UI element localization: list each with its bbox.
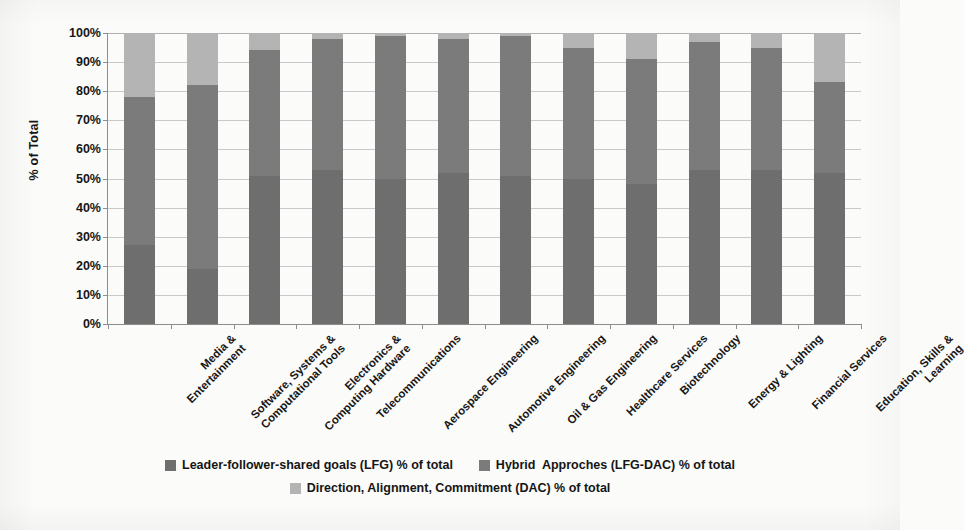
x-axis-category-labels: Media &EntertainmentSoftware, Systems &C… [0,330,900,450]
bar-7 [500,33,531,324]
y-tick-mark-80 [103,91,108,92]
bar-segment-lfg [375,179,406,325]
y-tick-mark-30 [103,237,108,238]
y-tick-label-0: 0% [55,317,101,331]
legend-swatch-icon [479,460,490,471]
x-tick-mark-0 [108,324,109,329]
bar-segment-hybrid [563,48,594,179]
x-axis-label-9: Biotechnology [678,332,744,398]
y-tick-mark-70 [103,120,108,121]
legend-item-3[interactable]: Direction, Alignment, Commitment (DAC) %… [290,481,611,495]
bar-segment-lfg [814,173,845,324]
chart-legend: Leader-follower-shared goals (LFG) % of … [0,458,900,495]
legend-label: Hybrid Approches (LFG-DAC) % of total [496,458,735,472]
y-tick-label-70: 70% [55,113,101,127]
x-tick-mark-11 [798,324,799,329]
x-tick-mark-10 [736,324,737,329]
bar-segment-dac [500,33,531,36]
bar-segment-hybrid [814,82,845,172]
x-label-line: Biotechnology [678,332,744,398]
bar-segment-dac [375,33,406,36]
legend-row-secondary: Direction, Alignment, Commitment (DAC) %… [0,481,900,495]
x-axis-label-7: Oil & Gas Engineering [564,332,659,427]
bar-segment-dac [689,33,720,42]
bar-11 [751,33,782,324]
y-tick-label-30: 30% [55,230,101,244]
y-tick-mark-90 [103,62,108,63]
y-tick-label-60: 60% [55,142,101,156]
bar-segment-dac [187,33,218,85]
y-tick-mark-60 [103,149,108,150]
gridline-60 [108,149,861,150]
x-tick-mark-1 [171,324,172,329]
legend-swatch-icon [290,483,301,494]
plot-area [107,33,861,325]
bar-segment-hybrid [187,85,218,268]
bar-segment-dac [626,33,657,59]
gridline-50 [108,179,861,180]
bar-segment-hybrid [500,36,531,176]
x-tick-mark-4 [359,324,360,329]
bar-segment-dac [249,33,280,50]
bar-segment-lfg [438,173,469,324]
bar-segment-dac [563,33,594,48]
legend-item-2[interactable]: Hybrid Approches (LFG-DAC) % of total [479,458,735,472]
x-tick-mark-8 [610,324,611,329]
x-tick-mark-7 [547,324,548,329]
legend-swatch-icon [165,460,176,471]
bar-3 [249,33,280,324]
bar-segment-dac [312,33,343,39]
bar-segment-dac [124,33,155,97]
bar-segment-lfg [312,170,343,324]
gridline-20 [108,266,861,267]
y-axis-title: % of Total [27,120,41,181]
x-tick-mark-5 [422,324,423,329]
y-tick-mark-50 [103,179,108,180]
bar-segment-lfg [563,179,594,325]
y-tick-label-10: 10% [55,288,101,302]
bar-segment-hybrid [751,48,782,170]
gridline-80 [108,91,861,92]
y-tick-mark-20 [103,266,108,267]
y-tick-mark-40 [103,208,108,209]
bar-segment-hybrid [312,39,343,170]
bar-10 [689,33,720,324]
gridline-40 [108,208,861,209]
bar-segment-lfg [249,176,280,324]
gridline-30 [108,237,861,238]
bar-segment-lfg [751,170,782,324]
bar-segment-lfg [626,184,657,324]
bar-segment-hybrid [626,59,657,184]
x-axis-label-12: Education, Skills &Learning [873,332,965,424]
bar-segment-dac [751,33,782,48]
bar-segment-hybrid [124,97,155,245]
bar-segment-dac [814,33,845,82]
y-tick-label-80: 80% [55,84,101,98]
y-tick-mark-100 [103,33,108,34]
x-tick-mark-9 [673,324,674,329]
gridline-70 [108,120,861,121]
gridline-100 [108,33,861,34]
x-axis-label-1: Media &Entertainment [175,332,249,406]
legend-label: Direction, Alignment, Commitment (DAC) %… [307,481,611,495]
x-tick-mark-6 [485,324,486,329]
bar-segment-lfg [500,176,531,324]
y-tick-mark-10 [103,295,108,296]
bar-8 [563,33,594,324]
bar-6 [438,33,469,324]
x-label-line: Oil & Gas Engineering [564,332,659,427]
bar-segment-hybrid [689,42,720,170]
bar-12 [814,33,845,324]
bar-segment-lfg [689,170,720,324]
bar-segment-lfg [187,269,218,324]
legend-row-primary: Leader-follower-shared goals (LFG) % of … [0,458,900,472]
legend-label: Leader-follower-shared goals (LFG) % of … [182,458,453,472]
legend-item-1[interactable]: Leader-follower-shared goals (LFG) % of … [165,458,453,472]
y-tick-label-40: 40% [55,201,101,215]
gridline-10 [108,295,861,296]
bar-segment-dac [438,33,469,39]
bar-9 [626,33,657,324]
bar-1 [124,33,155,324]
y-tick-label-100: 100% [55,26,101,40]
